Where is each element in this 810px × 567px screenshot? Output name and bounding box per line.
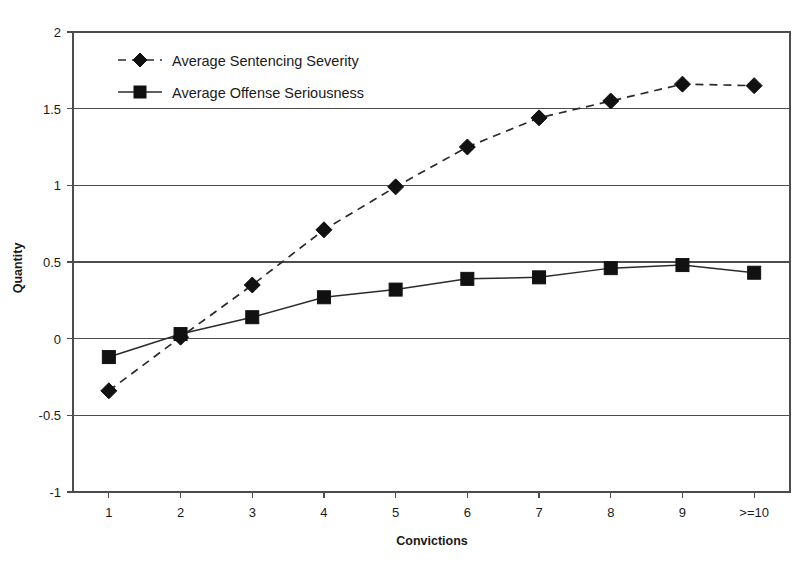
y-tick-label: -0.5	[39, 408, 61, 423]
legend-entry: Average Offense Seriousness	[118, 85, 364, 101]
y-tick-label: 0	[54, 332, 61, 347]
legend-entry: Average Sentencing Severity	[118, 53, 359, 69]
data-point-marker	[246, 311, 259, 324]
axis-tickmarks	[67, 32, 754, 498]
x-tick-label: 4	[320, 505, 327, 520]
x-tick-label: 9	[679, 505, 686, 520]
data-point-marker	[531, 110, 547, 126]
data-point-marker	[748, 266, 761, 279]
data-point-marker	[603, 93, 619, 109]
x-tick-label: 7	[535, 505, 542, 520]
data-series-group	[101, 76, 762, 399]
x-tick-label: 1	[105, 505, 112, 520]
data-point-marker	[533, 271, 546, 284]
x-tick-label: 8	[607, 505, 614, 520]
chart-legend: Average Sentencing SeverityAverage Offen…	[118, 53, 364, 101]
data-point-marker	[317, 291, 330, 304]
y-tick-label: 0.5	[43, 255, 61, 270]
x-tick-label: 6	[464, 505, 471, 520]
line-chart-canvas: 21.510.50-0.5-1 123456789>=10 Quantity C…	[0, 0, 810, 567]
x-axis-tick-labels: 123456789>=10	[105, 505, 769, 520]
y-axis-tick-labels: 21.510.50-0.5-1	[39, 25, 61, 500]
x-axis-title: Convictions	[396, 534, 468, 548]
x-tick-label: 3	[249, 505, 256, 520]
data-point-marker	[746, 78, 762, 94]
data-point-marker	[101, 383, 117, 399]
data-point-marker	[459, 139, 475, 155]
series-line	[109, 265, 754, 357]
y-tick-label: 1.5	[43, 102, 61, 117]
legend-label: Average Sentencing Severity	[172, 53, 359, 69]
data-point-marker	[604, 262, 617, 275]
x-tick-label: 2	[177, 505, 184, 520]
data-point-marker	[388, 179, 404, 195]
x-tick-label: >=10	[739, 505, 769, 520]
data-point-marker	[174, 328, 187, 341]
data-point-marker	[244, 277, 260, 293]
data-point-marker	[461, 272, 474, 285]
y-axis-title: Quantity	[11, 243, 25, 294]
legend-diamond-marker-icon	[133, 53, 147, 67]
data-point-marker	[674, 76, 690, 92]
data-point-marker	[389, 283, 402, 296]
y-tick-label: -1	[49, 485, 61, 500]
series-line	[109, 84, 754, 391]
chart-figure: 21.510.50-0.5-1 123456789>=10 Quantity C…	[0, 0, 810, 567]
legend-square-marker-icon	[134, 86, 146, 98]
data-point-marker	[676, 259, 689, 272]
x-tick-label: 5	[392, 505, 399, 520]
data-point-marker	[102, 351, 115, 364]
data-point-marker	[316, 222, 332, 238]
legend-label: Average Offense Seriousness	[172, 85, 364, 101]
series-offense-seriousness	[102, 259, 760, 364]
y-tick-label: 2	[54, 25, 61, 40]
series-sentencing-severity	[101, 76, 762, 399]
y-tick-label: 1	[54, 178, 61, 193]
